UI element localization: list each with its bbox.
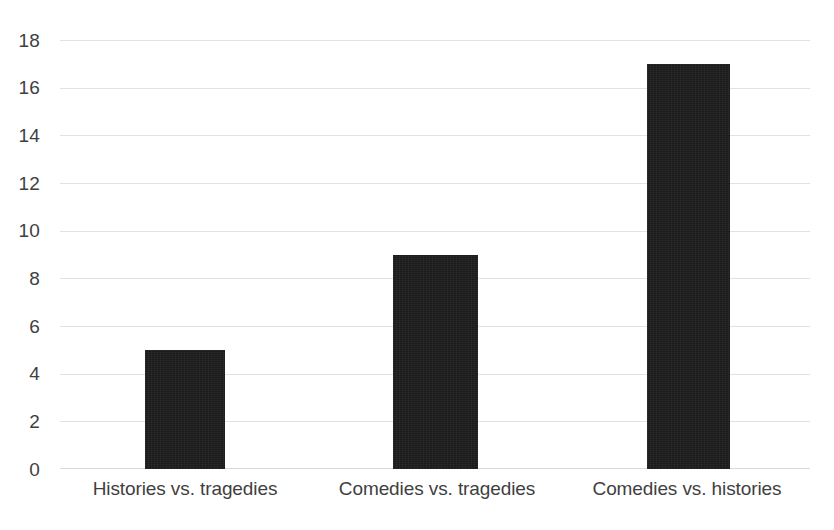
y-axis-tick-label: 18	[0, 31, 40, 50]
y-axis-tick-label: 6	[0, 317, 40, 336]
gridline-18	[60, 40, 810, 41]
y-axis-tick-label: 0	[0, 460, 40, 479]
bar-comedies-vs-histories[interactable]	[647, 64, 730, 469]
y-axis-tick-label: 4	[0, 364, 40, 383]
y-axis-tick-label: 2	[0, 412, 40, 431]
bar-comedies-vs-tragedies[interactable]	[393, 255, 478, 470]
y-axis-tick-label: 8	[0, 269, 40, 288]
bar-histories-vs-tragedies[interactable]	[145, 350, 225, 469]
x-axis-label-2: Comedies vs. histories	[562, 478, 812, 500]
x-axis-label-1: Comedies vs. tragedies	[312, 478, 562, 500]
y-axis-tick-label: 10	[0, 221, 40, 240]
bar-chart: 18 16 14 12 10 8 6 4 2 0 Histories vs. t…	[0, 0, 834, 530]
y-axis-tick-label: 14	[0, 126, 40, 145]
plot-area	[60, 40, 810, 469]
x-axis-label-0: Histories vs. tragedies	[60, 478, 310, 500]
y-axis-tick-label: 16	[0, 78, 40, 97]
y-axis-tick-label: 12	[0, 174, 40, 193]
